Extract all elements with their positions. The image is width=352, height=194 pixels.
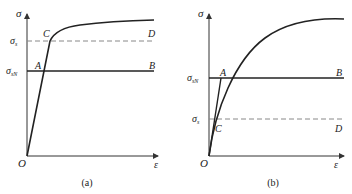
stress-strain-figure: σ ε O σs σsN A B C D (a) σ ε O σs σsN A … [0, 0, 352, 194]
point-C-label: C [215, 123, 222, 134]
y-axis-label: σ [16, 7, 22, 19]
sigma-sN-label: σsN [6, 65, 18, 77]
point-D-label: D [334, 123, 343, 134]
caption-b: (b) [267, 177, 279, 189]
sigma-s-label: σs [192, 113, 200, 125]
point-B-label: B [149, 60, 155, 71]
point-A-label: A [34, 60, 42, 71]
point-A-label: A [219, 67, 227, 78]
point-B-label: B [336, 67, 342, 78]
y-axis-label: σ [198, 7, 204, 19]
sigma-sN-label: σsN [187, 72, 199, 84]
origin-label: O [18, 157, 26, 169]
x-axis-label: ε [334, 159, 338, 170]
panel-a: σ ε O σs σsN A B C D (a) [6, 7, 158, 189]
stress-strain-curve [209, 19, 344, 156]
sigma-s-label: σs [10, 35, 18, 47]
point-D-label: D [147, 28, 156, 39]
origin-label: O [200, 157, 208, 169]
point-C-label: C [43, 28, 50, 39]
stress-strain-curve [27, 20, 154, 156]
x-axis-label: ε [154, 159, 158, 170]
caption-a: (a) [81, 177, 92, 189]
panel-b: σ ε O σs σsN A B C D (b) [187, 7, 344, 189]
